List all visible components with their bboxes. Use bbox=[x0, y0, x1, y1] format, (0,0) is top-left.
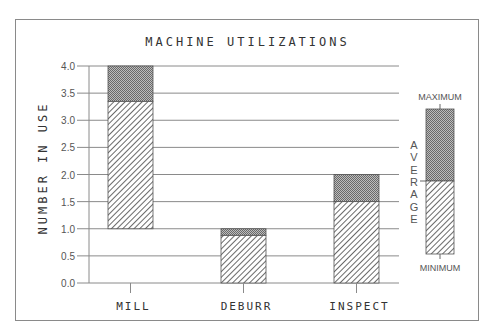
x-category-label: INSPECT bbox=[329, 300, 389, 313]
x-category-label: DEBURR bbox=[221, 300, 273, 313]
legend-maximum-label: MAXIMUM bbox=[418, 92, 462, 102]
legend-average-letter: E bbox=[410, 213, 417, 225]
bar-avg-to-max bbox=[334, 175, 379, 202]
y-tick-label: 3.5 bbox=[61, 88, 75, 99]
y-tick-label: 0.0 bbox=[61, 278, 75, 289]
y-tick-label: 1.5 bbox=[61, 197, 75, 208]
bar-mill bbox=[108, 66, 153, 229]
bar-min-to-avg bbox=[108, 101, 153, 228]
y-tick-label: 1.0 bbox=[61, 224, 75, 235]
legend-average-letter: G bbox=[410, 201, 419, 213]
y-tick-label: 2.0 bbox=[61, 170, 75, 181]
legend-average-label: AVERAGE bbox=[410, 139, 419, 225]
legend-average-letter: A bbox=[410, 139, 418, 151]
y-tick-label: 0.5 bbox=[61, 251, 75, 262]
legend-average-letter: V bbox=[410, 151, 418, 163]
y-tick-label: 4.0 bbox=[61, 61, 75, 72]
legend-lower-swatch bbox=[426, 181, 454, 254]
legend-average-letter: E bbox=[410, 164, 417, 176]
legend-minimum-label: MINIMUM bbox=[420, 263, 461, 273]
bar-inspect bbox=[334, 175, 379, 284]
legend-average-letter: R bbox=[410, 176, 418, 188]
bar-deburr bbox=[221, 229, 266, 283]
x-category-label: MILL bbox=[116, 300, 151, 313]
bar-avg-to-max bbox=[221, 229, 266, 236]
bar-min-to-avg bbox=[221, 235, 266, 283]
x-axis: MILLDEBURRINSPECT bbox=[116, 283, 389, 313]
y-tick-label: 3.0 bbox=[61, 115, 75, 126]
legend-average-letter: A bbox=[410, 188, 418, 200]
bar-min-to-avg bbox=[334, 202, 379, 283]
legend-upper-swatch bbox=[426, 109, 454, 181]
y-axis-ticks: 0.00.51.01.52.02.53.03.54.0 bbox=[61, 61, 75, 289]
bar-avg-to-max bbox=[108, 66, 153, 101]
legend: MAXIMUMMINIMUMAVERAGE bbox=[410, 92, 462, 273]
plot-area: 0.00.51.01.52.02.53.03.54.0 MILLDEBURRIN… bbox=[0, 0, 495, 335]
y-tick-label: 2.5 bbox=[61, 142, 75, 153]
